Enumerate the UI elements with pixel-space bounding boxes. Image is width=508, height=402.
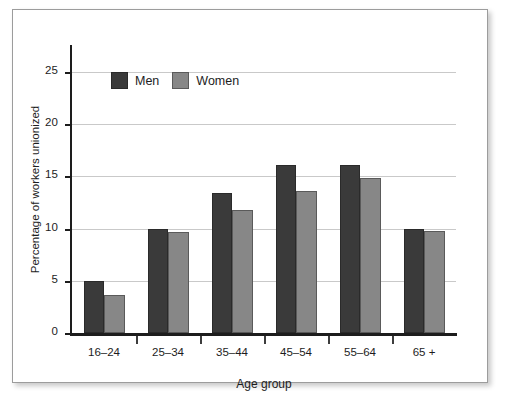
x-tick-mark [328,336,330,344]
bar-women-5 [424,231,445,333]
y-tick-label: 25 [18,64,58,76]
y-axis-title: Percentage of workers unionized [27,46,43,333]
x-axis-title: Age group [72,377,456,391]
men-swatch-icon [111,72,128,89]
bar-men-5 [404,229,425,333]
x-tick-label: 55–64 [344,346,376,358]
y-tick-label: 5 [18,273,58,285]
chart-figure: Percentage of workers unionized 05101520… [0,0,508,402]
legend-label-men: Men [135,74,159,88]
x-tick-label: 65 + [413,346,436,358]
x-tick-label: 16–24 [88,346,120,358]
y-tick-label: 20 [18,116,58,128]
x-tick-label: 45–54 [280,346,312,358]
legend-item-women: Women [172,72,239,89]
x-tick-mark [200,336,202,344]
x-tick-mark [392,336,394,344]
y-tick-label: 0 [18,325,58,337]
legend-label-women: Women [196,74,239,88]
bar-group [72,46,456,333]
legend-item-men: Men [111,72,159,89]
x-tick-label: 25–34 [152,346,184,358]
x-tick-label: 35–44 [216,346,248,358]
chart-legend: Men Women [111,72,239,89]
chart-panel: Percentage of workers unionized 05101520… [12,9,488,383]
x-tick-mark [136,336,138,344]
women-swatch-icon [172,72,189,89]
y-tick-label: 15 [18,168,58,180]
y-tick-label: 10 [18,221,58,233]
x-tick-mark [264,336,266,344]
plot-area [72,46,456,333]
